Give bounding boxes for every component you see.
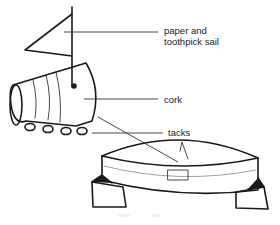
tacks-label: tacks [168,127,190,138]
sail-drawing [25,7,76,88]
boat-leader-line [98,117,178,162]
tray-drawing [92,140,268,209]
cork-boat-illustration [0,0,280,225]
figure-caption-faint [118,214,178,217]
cork-label: cork [164,94,182,105]
sail-label: paper and toothpick sail [164,25,219,47]
sail-label-line2: toothpick sail [164,36,219,47]
cork-drawing [10,63,96,135]
sail-label-line1: paper and [164,25,219,36]
